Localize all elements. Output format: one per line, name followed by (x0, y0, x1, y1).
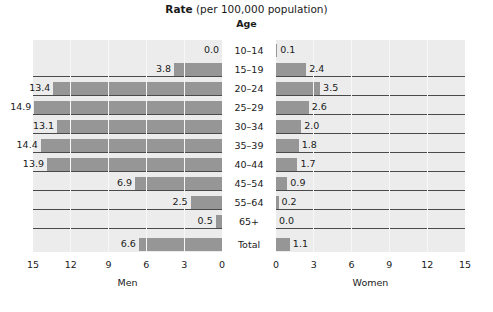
chart-title-rest: (per 100,000 population) (193, 3, 328, 15)
row-separator (33, 209, 222, 210)
gridline (351, 40, 352, 252)
bar-women-35–39 (276, 139, 299, 152)
row-separator (276, 209, 465, 210)
age-label-65+: 65+ (222, 212, 276, 231)
bar-men-Total (139, 238, 222, 251)
bar-men-20–24 (53, 82, 222, 95)
axis-tick-6: 6 (143, 258, 149, 272)
value-label-women-15–19: 2.4 (309, 62, 324, 76)
chart-root: Rate (per 100,000 population) Age 10–141… (0, 0, 493, 312)
x-axis-title-women: Women (276, 276, 465, 290)
bar-women-25–29 (276, 101, 309, 114)
gridline (389, 40, 390, 252)
bar-men-25–29 (34, 101, 222, 114)
value-label-men-Total: 6.6 (115, 237, 136, 251)
gridline (70, 40, 71, 252)
row-separator (276, 228, 465, 229)
age-axis-header: Age (0, 17, 493, 30)
value-label-men-40–44: 13.9 (23, 157, 44, 171)
value-label-men-45–54: 6.9 (111, 176, 132, 190)
row-separator (276, 190, 465, 191)
row-separator (33, 114, 222, 115)
row-separator (276, 76, 465, 77)
row-separator (276, 171, 465, 172)
chart-title: Rate (per 100,000 population) (0, 3, 493, 16)
age-label-10–14: 10–14 (222, 41, 276, 60)
axis-tick-6: 6 (349, 258, 355, 272)
bar-women-15–19 (276, 63, 306, 76)
row-separator (33, 171, 222, 172)
bar-row (276, 41, 465, 60)
bar-row (33, 136, 222, 155)
row-separator (33, 95, 222, 96)
value-label-men-15–19: 3.8 (150, 62, 171, 76)
bar-women-10–14 (276, 44, 277, 57)
bar-women-45–54 (276, 177, 287, 190)
value-label-women-25–29: 2.6 (312, 100, 327, 114)
axis-tick-15: 15 (27, 258, 39, 272)
bar-women-40–44 (276, 158, 297, 171)
bar-men-45–54 (135, 177, 222, 190)
age-label-25–29: 25–29 (222, 98, 276, 117)
value-label-men-35–39: 14.4 (17, 138, 38, 152)
bar-women-Total (276, 238, 290, 251)
row-separator (276, 95, 465, 96)
axis-tick-12: 12 (65, 258, 77, 272)
x-axis-women: 03691215 (276, 258, 465, 272)
bar-women-30–34 (276, 120, 301, 133)
value-label-women-Total: 1.1 (293, 237, 308, 251)
gridline (184, 40, 185, 252)
age-label-30–34: 30–34 (222, 117, 276, 136)
bar-row (33, 98, 222, 117)
bar-men-35–39 (41, 139, 222, 152)
value-label-women-10–14: 0.1 (280, 43, 295, 57)
bar-row (33, 117, 222, 136)
gridline (146, 40, 147, 252)
bar-women-55–64 (276, 196, 279, 209)
bar-row (276, 193, 465, 212)
value-label-women-40–44: 1.7 (300, 157, 315, 171)
value-label-men-65+: 0.5 (192, 214, 213, 228)
bar-men-30–34 (57, 120, 222, 133)
bar-men-55–64 (191, 196, 223, 209)
value-label-men-10–14: 0.0 (198, 43, 219, 57)
axis-tick-3: 3 (181, 258, 187, 272)
value-label-women-30–34: 2.0 (304, 119, 319, 133)
age-label-15–19: 15–19 (222, 60, 276, 79)
value-label-women-35–39: 1.8 (302, 138, 317, 152)
bar-row (33, 60, 222, 79)
age-label-column: 10–1415–1920–2425–2930–3435–3940–4445–54… (222, 40, 276, 252)
row-separator (276, 133, 465, 134)
axis-tick-12: 12 (421, 258, 433, 272)
value-label-men-20–24: 13.4 (29, 81, 50, 95)
row-separator (33, 133, 222, 134)
x-axis-title-men: Men (33, 276, 222, 290)
value-label-women-20–24: 3.5 (323, 81, 338, 95)
value-label-men-55–64: 2.5 (167, 195, 188, 209)
value-label-women-65+: 0.0 (279, 214, 294, 228)
value-label-men-25–29: 14.9 (10, 100, 31, 114)
row-separator (276, 152, 465, 153)
bar-row (33, 193, 222, 212)
bar-men-15–19 (174, 63, 222, 76)
axis-tick-0: 0 (273, 258, 279, 272)
bar-row (33, 79, 222, 98)
row-separator (33, 228, 222, 229)
gridline (108, 40, 109, 252)
value-label-women-55–64: 0.2 (282, 195, 297, 209)
axis-tick-15: 15 (459, 258, 471, 272)
axis-tick-3: 3 (311, 258, 317, 272)
chart-title-strong: Rate (165, 3, 192, 15)
age-label-Total: Total (222, 235, 276, 254)
bar-row (276, 98, 465, 117)
axis-tick-0: 0 (219, 258, 225, 272)
row-separator (33, 152, 222, 153)
bar-row (33, 155, 222, 174)
title-block: Rate (per 100,000 population) Age (0, 3, 493, 30)
x-axis-men: 15129630 (33, 258, 222, 272)
row-separator (33, 190, 222, 191)
bar-row (33, 41, 222, 60)
age-label-20–24: 20–24 (222, 79, 276, 98)
bar-row (276, 212, 465, 231)
value-label-men-30–34: 13.1 (33, 119, 54, 133)
